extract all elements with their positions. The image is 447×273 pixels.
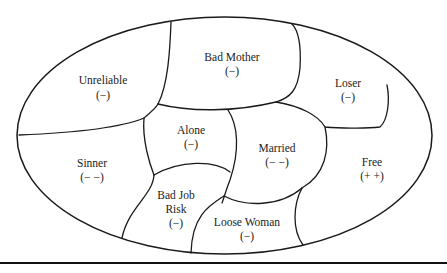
boundary-married-loosewoman [224, 188, 302, 203]
region-married: Married (− −) [258, 142, 295, 169]
label-sinner: Sinner [77, 157, 107, 169]
boundary-alone-married [222, 110, 237, 203]
boundary-badmother-alone [158, 102, 276, 110]
region-bad-mother: Bad Mother (−) [204, 51, 259, 78]
boundary-married-free [302, 127, 327, 188]
boundary-unreliable-sinner [19, 104, 158, 135]
boundary-unreliable-badmother [158, 22, 171, 104]
region-sinner: Sinner (− −) [77, 157, 107, 184]
label-unreliable-sign: (−) [96, 89, 110, 102]
region-diagram: Unreliable (−) Bad Mother (−) Loser (−) … [0, 0, 447, 273]
label-married-sign: (− −) [265, 156, 289, 169]
region-loose-woman: Loose Woman (−) [214, 216, 281, 243]
label-married: Married [258, 142, 295, 154]
label-free: Free [362, 156, 382, 168]
label-loose-woman: Loose Woman [214, 216, 281, 228]
label-loser-sign: (−) [341, 91, 355, 104]
label-bad-mother: Bad Mother [204, 51, 259, 63]
label-risk: Risk [165, 203, 186, 215]
region-loser: Loser (−) [335, 77, 361, 104]
boundary-sinner-badjob [122, 175, 154, 238]
boundary-alone-sinner [144, 118, 154, 175]
boundary-loosewoman-free [295, 188, 303, 245]
label-free-sign: (+ +) [360, 170, 384, 183]
label-alone: Alone [177, 124, 205, 136]
label-sinner-sign: (− −) [80, 171, 104, 184]
boundary-alone-badjob [154, 163, 230, 175]
label-loser: Loser [335, 77, 361, 89]
region-free: Free (+ +) [360, 156, 384, 183]
label-loose-woman-sign: (−) [240, 230, 254, 243]
label-unreliable: Unreliable [79, 74, 128, 86]
region-unreliable: Unreliable (−) [79, 74, 128, 102]
label-bad-job: Bad Job [157, 189, 195, 201]
boundary-badmother-loser [276, 24, 300, 102]
label-bad-mother-sign: (−) [225, 65, 239, 78]
region-alone: Alone (−) [177, 124, 205, 151]
label-bad-job-sign: (−) [169, 217, 183, 230]
region-bad-job-risk: Bad Job Risk (−) [157, 189, 195, 230]
label-alone-sign: (−) [184, 138, 198, 151]
